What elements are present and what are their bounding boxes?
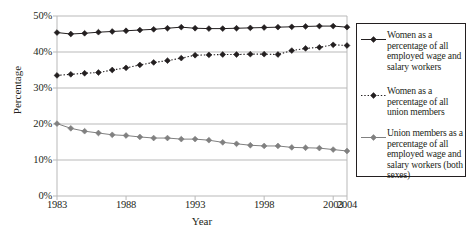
series-marker-1 [234, 25, 240, 31]
series-marker-2 [151, 60, 157, 66]
plot-canvas [57, 16, 347, 196]
series-marker-2 [96, 70, 102, 76]
line-chart-figure: 0%10%20%30%40%50% Percentage 19831988199… [0, 0, 471, 251]
series-marker-3 [109, 132, 115, 138]
series-marker-2 [68, 71, 74, 77]
series-marker-3 [275, 143, 281, 149]
series-marker-3 [192, 136, 198, 142]
series-marker-1 [261, 25, 267, 31]
legend-entries: Women as a percentage of all employed wa… [357, 24, 465, 176]
legend-entry-label: Women as a percentage of all employed wa… [387, 30, 464, 72]
series-marker-2 [165, 58, 171, 64]
series-marker-3 [316, 145, 322, 151]
series-marker-1 [151, 26, 157, 32]
x-axis-tick-label: 1993 [170, 199, 220, 211]
legend-diamond-marker [371, 93, 377, 99]
series-marker-3 [68, 125, 74, 131]
series-marker-1 [54, 30, 60, 36]
series-marker-1 [165, 25, 171, 31]
series-marker-2 [316, 44, 322, 50]
series-marker-1 [330, 23, 336, 29]
plot-area [57, 16, 347, 196]
series-marker-3 [82, 128, 88, 134]
legend-entry: Women as a percentage of all union membe… [360, 86, 464, 118]
x-axis-tick-label: 1983 [32, 199, 82, 211]
x-axis-tick-label: 1988 [101, 199, 151, 211]
series-marker-1 [316, 23, 322, 29]
series-marker-2 [137, 62, 143, 68]
series-marker-3 [344, 148, 350, 154]
dotted-line-diamond-marker [360, 87, 387, 98]
series-marker-1 [123, 28, 129, 34]
chart-legend: Women as a percentage of all employed wa… [356, 23, 466, 177]
gray-solid-line-diamond-marker [360, 129, 387, 140]
series-marker-3 [220, 139, 226, 145]
series-marker-3 [165, 135, 171, 141]
legend-diamond-marker [371, 135, 377, 141]
series-marker-2 [192, 52, 198, 58]
series-marker-1 [82, 30, 88, 36]
legend-diamond-marker [371, 37, 377, 43]
series-markers [54, 23, 350, 154]
series-marker-3 [178, 136, 184, 142]
series-marker-1 [96, 29, 102, 35]
series-marker-3 [247, 142, 253, 148]
series-marker-3 [137, 134, 143, 140]
series-marker-2 [82, 70, 88, 76]
series-marker-1 [109, 29, 115, 35]
series-marker-3 [330, 147, 336, 153]
series-marker-1 [303, 24, 309, 30]
y-axis-tick-label: 10% [6, 155, 52, 165]
series-marker-3 [123, 133, 129, 139]
series-marker-3 [151, 135, 157, 141]
series-marker-1 [68, 31, 74, 37]
series-marker-3 [206, 137, 212, 143]
y-axis-tick-label: 50% [6, 11, 52, 21]
series-marker-1 [247, 25, 253, 31]
x-axis-tick-label: 2004 [322, 199, 372, 211]
series-marker-1 [192, 25, 198, 31]
legend-entry-label: Union members as a percentage of all emp… [387, 128, 464, 181]
series-marker-2 [178, 55, 184, 61]
legend-entry-label: Women as a percentage of all union membe… [387, 86, 464, 118]
series-marker-2 [206, 52, 212, 58]
series-marker-3 [303, 145, 309, 151]
gridlines [57, 16, 347, 160]
series-marker-3 [289, 145, 295, 151]
series-marker-2 [344, 43, 350, 49]
series-marker-3 [234, 141, 240, 147]
series-marker-2 [123, 65, 129, 71]
series-marker-1 [275, 24, 281, 30]
y-axis-title: Percentage [11, 45, 23, 135]
x-axis-title: Year [57, 215, 347, 227]
series-marker-1 [344, 24, 350, 30]
series-marker-1 [137, 27, 143, 33]
series-marker-2 [303, 46, 309, 52]
series-marker-3 [261, 143, 267, 149]
x-axis-tick-labels: 198319881993199820032004 [0, 199, 471, 215]
legend-entry: Women as a percentage of all employed wa… [360, 30, 464, 72]
series-marker-3 [54, 121, 60, 127]
axis-lines [53, 16, 347, 196]
series-marker-1 [220, 26, 226, 32]
legend-entry: Union members as a percentage of all emp… [360, 128, 464, 181]
series-marker-2 [289, 48, 295, 54]
solid-line-diamond-marker [360, 31, 387, 42]
series-marker-1 [178, 24, 184, 30]
series-marker-3 [96, 130, 102, 136]
x-axis-tick-label: 1998 [239, 199, 289, 211]
series-marker-2 [109, 67, 115, 73]
series-marker-1 [289, 24, 295, 30]
series-marker-1 [206, 26, 212, 32]
series-marker-2 [330, 42, 336, 48]
series-marker-2 [54, 73, 60, 79]
